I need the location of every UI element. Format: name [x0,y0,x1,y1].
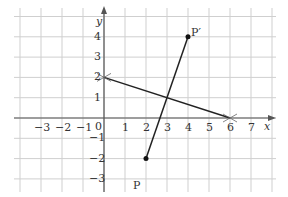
point-p-prime-label: P′ [191,27,201,38]
y-tick-label: 4 [94,31,101,42]
y-axis-arrow-icon [101,6,107,14]
x-tick-label: 3 [164,122,171,133]
grid-lines [14,8,276,192]
y-tick-label: −2 [89,153,105,164]
x-tick-label: 2 [143,122,150,133]
point-p [144,156,149,161]
x-axis-label: x [264,121,270,132]
y-tick-label: 3 [94,51,101,62]
x-tick-label: 5 [206,122,213,133]
point-p-label: P [133,180,140,191]
point-p-prime [186,34,191,39]
coordinate-grid [0,0,288,197]
x-tick-label: 4 [185,122,192,133]
x-tick-label: 6 [227,122,234,133]
y-axis-label: y [96,16,102,27]
y-tick-label: 2 [94,71,101,82]
x-tick-label: 7 [248,122,255,133]
x-tick-label: −3 [34,122,50,133]
x-tick-label: −2 [55,122,71,133]
x-tick-label: 1 [122,122,129,133]
y-tick-label: 1 [94,92,101,103]
y-tick-label: −1 [89,132,105,143]
axes [14,6,276,192]
y-tick-label: −3 [89,173,105,184]
